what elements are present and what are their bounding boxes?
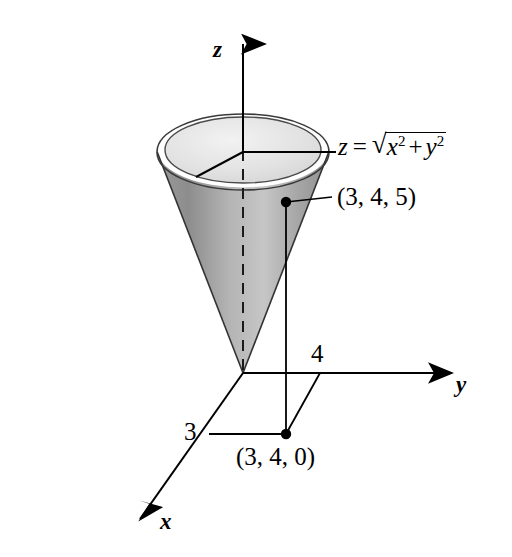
cone-body-fill bbox=[157, 152, 329, 373]
base-parallelogram bbox=[209, 373, 320, 434]
equation-operator: + bbox=[405, 133, 425, 160]
tick-label-y-4: 4 bbox=[311, 341, 324, 366]
x-axis-label: x bbox=[160, 510, 172, 533]
equation-radical: √x2+y2 bbox=[372, 132, 446, 159]
point-label-340: (3, 4, 0) bbox=[236, 444, 315, 469]
z-axis-label: z bbox=[213, 38, 222, 61]
equation-lhs: z bbox=[338, 133, 348, 160]
equation-term1-base: x bbox=[387, 133, 398, 160]
surface-equation-label: z=√x2+y2 bbox=[338, 132, 446, 159]
point-marker-345 bbox=[281, 197, 291, 207]
tick-label-x-3: 3 bbox=[184, 419, 197, 444]
cone-diagram-figure: z y x 3 4 (3, 4, 5) (3, 4, 0) z=√x2+y2 bbox=[0, 0, 512, 557]
equation-relation: = bbox=[348, 133, 372, 160]
base-edge-point-to-y4 bbox=[286, 373, 320, 434]
diagram-canvas bbox=[0, 0, 512, 557]
x-axis bbox=[140, 373, 243, 519]
equation-term2-exponent: 2 bbox=[437, 133, 445, 149]
point-marker-340 bbox=[281, 429, 291, 439]
radical-sign-icon: √ bbox=[372, 131, 387, 158]
point-label-345: (3, 4, 5) bbox=[337, 184, 416, 209]
equation-radicand: x2+y2 bbox=[385, 132, 446, 159]
y-axis-label: y bbox=[456, 373, 466, 396]
equation-term2-base: y bbox=[426, 133, 437, 160]
